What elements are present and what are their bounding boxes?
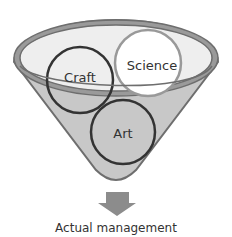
funnel-diagram: Craft Science Art Actual management bbox=[0, 0, 232, 237]
art-label: Art bbox=[113, 126, 132, 141]
down-arrow-icon bbox=[98, 192, 136, 216]
output-label: Actual management bbox=[55, 221, 177, 235]
craft-label: Craft bbox=[64, 70, 96, 85]
science-label: Science bbox=[127, 58, 177, 73]
